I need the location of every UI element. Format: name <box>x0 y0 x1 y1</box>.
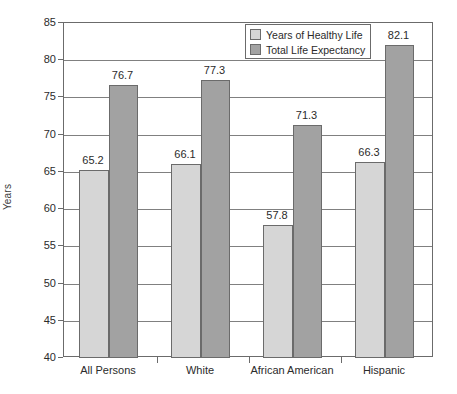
bar-value-label: 66.1 <box>169 148 201 160</box>
legend-swatch-icon-dark <box>250 44 261 55</box>
y-axis-tick-label: 50 <box>30 277 56 288</box>
x-axis-category-label: All Persons <box>80 364 136 377</box>
y-axis-tick-label: 75 <box>30 91 56 102</box>
bar <box>355 162 385 358</box>
y-axis-tick-mark <box>58 245 63 246</box>
bar <box>171 164 201 358</box>
bar-chart: Years 85807570656055504540 Years of Heal… <box>0 0 457 394</box>
bar-value-label: 65.2 <box>77 154 109 166</box>
bar-value-label: 66.3 <box>353 146 385 158</box>
y-axis-tick-mark <box>58 357 63 358</box>
gridline <box>64 60 432 61</box>
y-axis-tick-label: 80 <box>30 54 56 65</box>
x-axis-category-label: Hispanic <box>363 364 405 377</box>
bar <box>293 125 322 358</box>
y-axis-tick-labels: 85807570656055504540 <box>28 22 56 357</box>
bar-value-label: 77.3 <box>199 64 231 76</box>
y-axis-tick-label: 45 <box>30 314 56 325</box>
legend-label-life-expectancy: Total Life Expectancy <box>266 44 365 56</box>
bar <box>263 225 293 358</box>
y-axis-tick-label: 60 <box>30 203 56 214</box>
y-axis-title: Years <box>0 0 16 394</box>
y-axis-tick-label: 65 <box>30 165 56 176</box>
x-axis-category-label: African American <box>250 364 333 377</box>
y-axis-tick-label: 40 <box>30 352 56 363</box>
chart-legend: Years of Healthy Life Total Life Expecta… <box>245 24 371 59</box>
y-axis-tick-label: 55 <box>30 240 56 251</box>
legend-item-life-expectancy: Total Life Expectancy <box>250 42 366 57</box>
y-axis-tick-mark <box>58 22 63 23</box>
x-axis-separator-tick <box>249 357 250 363</box>
bar-value-label: 57.8 <box>261 209 293 221</box>
y-axis-tick-mark <box>58 171 63 172</box>
y-axis-tick-mark <box>58 59 63 60</box>
y-axis-tick-mark <box>58 320 63 321</box>
bar-value-label: 71.3 <box>291 109 323 121</box>
y-axis-tick-label: 70 <box>30 128 56 139</box>
y-axis-tick-mark <box>58 96 63 97</box>
bar <box>201 80 230 358</box>
y-axis-tick-mark <box>58 208 63 209</box>
x-axis-separator-tick <box>341 357 342 363</box>
y-axis-tick-label: 85 <box>30 17 56 28</box>
x-axis-category-label: White <box>186 364 214 377</box>
bar <box>109 85 138 358</box>
legend-item-healthy-life: Years of Healthy Life <box>250 27 366 42</box>
bar-value-label: 76.7 <box>107 69 139 81</box>
y-axis-tick-mark <box>58 283 63 284</box>
bar-value-label: 82.1 <box>383 29 415 41</box>
bar <box>79 170 109 358</box>
bar <box>385 45 414 358</box>
legend-label-healthy-life: Years of Healthy Life <box>266 29 363 41</box>
x-axis-separator-tick <box>157 357 158 363</box>
y-axis-tick-mark <box>58 134 63 135</box>
legend-swatch-icon-light <box>250 29 261 40</box>
